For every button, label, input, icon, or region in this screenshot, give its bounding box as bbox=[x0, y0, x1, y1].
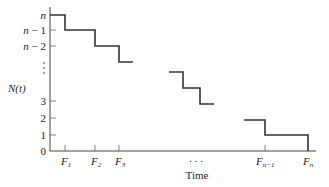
step-segment-end bbox=[244, 120, 308, 151]
y-label-n-part: n bbox=[23, 24, 29, 36]
y-label-2: 2 bbox=[41, 112, 47, 124]
y-label-n-minus-2: n − 2 bbox=[23, 40, 46, 52]
y-label-n-minus-1: n − 1 bbox=[23, 24, 46, 36]
x-label-fn: Fn bbox=[302, 155, 314, 169]
y-label-1: 1 bbox=[41, 129, 47, 141]
step-chart: n n − 1 n − 2 N(t) 3 2 1 0 F1 F2 F3 . . … bbox=[0, 0, 329, 187]
y-label-3: 3 bbox=[41, 95, 47, 107]
step-segment-middle bbox=[169, 72, 214, 104]
y-label-n-part: n bbox=[23, 40, 29, 52]
x-label-f3: F3 bbox=[114, 155, 126, 169]
x-label-f2: F2 bbox=[90, 155, 102, 169]
vertical-ellipsis bbox=[43, 62, 45, 74]
x-axis-title: Time bbox=[186, 169, 209, 181]
y-label-n: n bbox=[41, 9, 47, 21]
x-label-fn1: Fn−1 bbox=[255, 155, 274, 169]
x-label-f1: F1 bbox=[60, 155, 71, 169]
x-gap-dots: . . . bbox=[189, 152, 203, 164]
y-axis-title: N(t) bbox=[7, 82, 26, 95]
y-label-0: 0 bbox=[41, 145, 47, 157]
step-segment-start bbox=[50, 15, 133, 62]
